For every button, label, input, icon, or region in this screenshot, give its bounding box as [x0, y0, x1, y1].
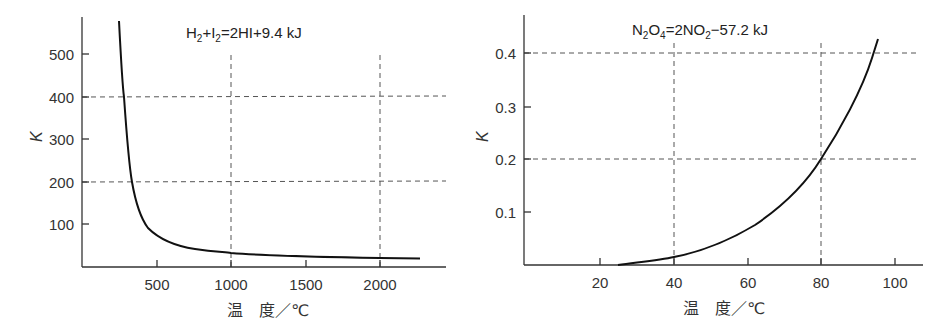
svg-text:100: 100 — [49, 216, 74, 233]
y-axis-label: K — [28, 130, 45, 142]
svg-text:20: 20 — [592, 274, 609, 291]
svg-text:400: 400 — [49, 89, 74, 106]
svg-text:0.4: 0.4 — [495, 45, 516, 62]
grid-lines — [524, 43, 917, 265]
chart-n2o4-equilibrium: 0.4 0.3 0.2 0.1 20 40 60 80 100 K 温 度／℃ … — [474, 15, 923, 317]
x-tick-labels: 20 40 60 80 100 — [592, 274, 908, 291]
x-tick-labels: 500 1000 1500 2000 — [144, 276, 396, 293]
svg-text:80: 80 — [813, 274, 830, 291]
svg-text:0.1: 0.1 — [495, 204, 516, 221]
svg-text:200: 200 — [49, 174, 74, 191]
svg-text:1500: 1500 — [289, 276, 322, 293]
svg-text:0.3: 0.3 — [495, 99, 516, 116]
x-axis-label: 温 度／℃ — [683, 300, 765, 317]
svg-text:100: 100 — [882, 274, 907, 291]
chart-hi-equilibrium: 500 400 300 200 100 500 1000 1500 2000 K… — [28, 17, 446, 319]
svg-text:500: 500 — [144, 276, 169, 293]
y-tick-labels: 500 400 300 200 100 — [49, 46, 74, 233]
svg-text:500: 500 — [49, 46, 74, 63]
y-axis-label: K — [474, 130, 491, 142]
axes — [82, 17, 446, 267]
curve-n2o4 — [618, 39, 878, 265]
svg-text:1000: 1000 — [214, 276, 247, 293]
curve-hi — [119, 21, 420, 259]
y-tick-labels: 0.4 0.3 0.2 0.1 — [495, 45, 516, 221]
svg-text:60: 60 — [740, 274, 757, 291]
chart-title: N2O4=2NO2−57.2 kJ — [632, 21, 768, 41]
chart-canvas: 500 400 300 200 100 500 1000 1500 2000 K… — [0, 0, 934, 331]
svg-text:40: 40 — [666, 274, 683, 291]
grid-lines — [82, 55, 446, 267]
svg-text:2000: 2000 — [363, 276, 396, 293]
x-axis-label: 温 度／℃ — [227, 302, 309, 319]
svg-text:300: 300 — [49, 131, 74, 148]
svg-text:0.2: 0.2 — [495, 151, 516, 168]
chart-title: H2+I2=2HI+9.4 kJ — [186, 24, 302, 44]
